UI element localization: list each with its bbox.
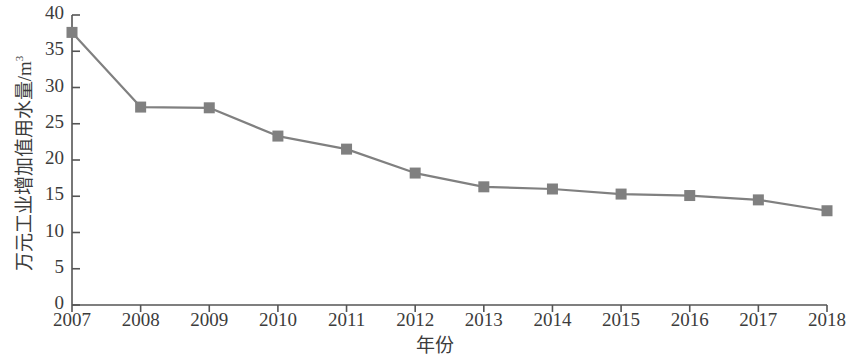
x-axis-tick-label: 2018	[793, 309, 850, 331]
data-point-marker	[204, 102, 215, 113]
x-axis-title: 年份	[375, 330, 495, 357]
data-point-marker	[67, 27, 78, 38]
x-axis-tick-label: 2009	[175, 309, 243, 331]
x-axis-tick-label: 2017	[724, 309, 792, 331]
y-axis-tick-label: 30	[30, 75, 64, 97]
x-axis-tick-label: 2008	[107, 309, 175, 331]
y-axis-tick-label: 15	[30, 183, 64, 205]
x-axis-tick-label: 2016	[656, 309, 724, 331]
y-axis-title-exponent: 3	[13, 56, 25, 62]
x-axis-tick-label: 2015	[587, 309, 655, 331]
y-axis-tick-label: 25	[30, 111, 64, 133]
y-axis-tick-label: 40	[30, 2, 64, 24]
x-axis-tick-label: 2012	[381, 309, 449, 331]
x-axis-tick-label: 2014	[518, 309, 586, 331]
y-axis-tick-label: 5	[30, 256, 64, 278]
data-point-marker	[753, 194, 764, 205]
data-point-marker	[341, 144, 352, 155]
data-point-marker	[272, 131, 283, 142]
y-axis-tick-label: 35	[30, 38, 64, 60]
data-point-marker	[547, 184, 558, 195]
chart-canvas	[0, 0, 850, 360]
data-point-marker	[822, 205, 833, 216]
x-axis-tick-label: 2007	[38, 309, 106, 331]
data-point-marker	[410, 168, 421, 179]
data-line	[72, 32, 827, 210]
x-axis-tick-label: 2011	[313, 309, 381, 331]
data-point-marker	[135, 102, 146, 113]
data-point-marker	[616, 189, 627, 200]
x-axis-tick-label: 2013	[450, 309, 518, 331]
data-point-marker	[684, 190, 695, 201]
data-point-marker	[478, 181, 489, 192]
line-chart: 万元工业增加值用水量/m3 年份 05101520253035402007200…	[0, 0, 850, 360]
x-axis-tick-label: 2010	[244, 309, 312, 331]
y-axis-tick-label: 10	[30, 220, 64, 242]
y-axis-tick-label: 20	[30, 147, 64, 169]
